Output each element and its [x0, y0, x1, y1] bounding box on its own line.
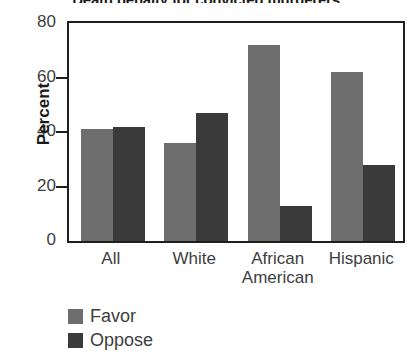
legend-item-favor[interactable]: Favor [68, 304, 153, 328]
bar-oppose-all [113, 127, 145, 241]
oppose-swatch [68, 333, 83, 348]
y-axis-label: Percent [34, 54, 54, 174]
chart-title: Death penalty for convicted murderers [0, 0, 412, 3]
bar-favor-african-american [248, 45, 280, 241]
chart-legend: FavorOppose [68, 304, 153, 352]
bar-favor-white [164, 143, 196, 241]
legend-label: Oppose [90, 330, 153, 351]
y-tick-mark-40 [56, 131, 67, 133]
x-tick-label-hispanic: Hispanic [301, 249, 412, 268]
y-tick-label-80: 80 [16, 12, 56, 32]
y-tick-mark-60 [56, 77, 67, 79]
favor-swatch [68, 309, 83, 324]
y-tick-label-0: 0 [16, 230, 56, 250]
bar-favor-all [81, 129, 113, 241]
bar-oppose-white [196, 113, 228, 241]
legend-label: Favor [90, 306, 136, 327]
bar-oppose-hispanic [363, 165, 395, 241]
plot-frame [67, 21, 405, 243]
bar-chart: Death penalty for convicted murderers 02… [0, 0, 412, 354]
bar-favor-hispanic [331, 72, 363, 241]
y-tick-mark-20 [56, 186, 67, 188]
bar-oppose-african-american [280, 206, 312, 241]
y-tick-label-20: 20 [16, 176, 56, 196]
plot-area [69, 23, 403, 241]
legend-item-oppose[interactable]: Oppose [68, 328, 153, 352]
